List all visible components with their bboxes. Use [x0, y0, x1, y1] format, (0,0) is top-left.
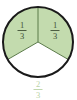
caption-numerator: 2: [36, 79, 40, 89]
fraction-circle-figure: 1 3 1 3 2 3: [0, 0, 77, 99]
sector-left-third-numerator: 1: [20, 20, 24, 30]
sector-right-third-denominator: 3: [53, 31, 57, 41]
sector-right-third-numerator: 1: [53, 20, 57, 30]
caption-denominator: 3: [36, 90, 40, 100]
caption-fraction: 2 3: [34, 79, 43, 99]
sector-left-third-denominator: 3: [20, 31, 24, 41]
fraction-circle-diagram: 1 3 1 3 2 3: [0, 0, 77, 99]
